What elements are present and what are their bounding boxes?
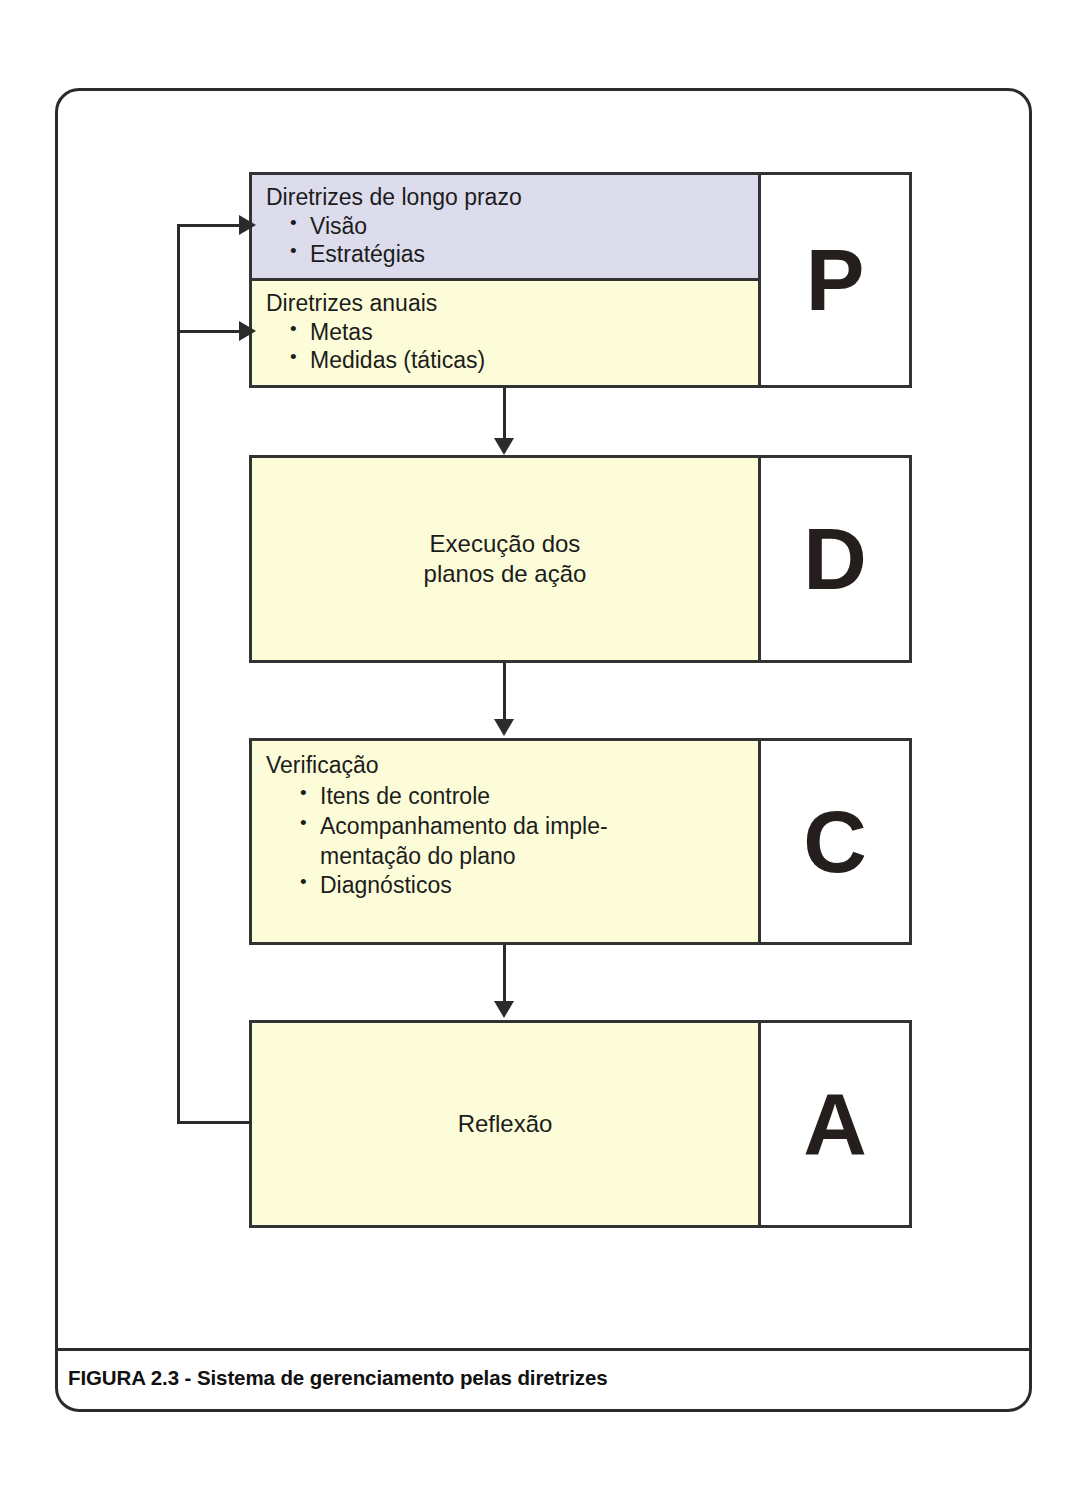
bullet-acompanhamento-line2: mentação do plano <box>320 842 758 872</box>
block-act-text: Reflexão <box>252 1023 758 1225</box>
letter-d: D <box>803 515 867 603</box>
figure-caption: FIGURA 2.3 - Sistema de gerenciamento pe… <box>68 1358 1008 1398</box>
row-long-term-heading: Diretrizes de longo prazo <box>266 185 758 211</box>
block-check-body: Verificação Itens de controle Acompanham… <box>252 741 761 942</box>
connector-check-to-act-line <box>503 945 506 1003</box>
block-plan-body: Diretrizes de longo prazo Visão Estratég… <box>252 175 761 385</box>
feedback-arrowhead-to-annual <box>239 321 256 341</box>
row-annual-guidelines: Diretrizes anuais Metas Medidas (táticas… <box>252 278 758 385</box>
block-check-bullets: Itens de controle Acompanhamento da impl… <box>266 782 758 902</box>
letter-c: C <box>803 798 867 886</box>
bullet-acompanhamento-line1: Acompanhamento da imple- <box>320 813 608 839</box>
bullet-acompanhamento: Acompanhamento da imple- mentação do pla… <box>320 812 758 872</box>
bullet-metas: Metas <box>310 318 758 346</box>
row-long-term-guidelines: Diretrizes de longo prazo Visão Estratég… <box>252 175 758 278</box>
bullet-estrategias: Estratégias <box>310 240 758 268</box>
feedback-line-riser <box>177 224 180 1124</box>
row-long-term-bullets: Visão Estratégias <box>266 212 758 268</box>
bullet-diagnosticos: Diagnósticos <box>320 871 758 901</box>
connector-check-to-act-arrowhead <box>494 1001 514 1018</box>
block-check-letter-cell: C <box>761 741 909 942</box>
letter-p: P <box>806 236 865 324</box>
block-act-letter-cell: A <box>761 1023 909 1225</box>
caption-divider <box>55 1348 1032 1351</box>
connector-do-to-check-line <box>503 663 506 721</box>
connector-plan-to-do-arrowhead <box>494 438 514 455</box>
block-act-body: Reflexão <box>252 1023 761 1225</box>
block-do-text: Execução dos planos de ação <box>252 458 758 660</box>
block-check: Verificação Itens de controle Acompanham… <box>249 738 912 945</box>
bullet-itens-controle: Itens de controle <box>320 782 758 812</box>
connector-do-to-check-arrowhead <box>494 719 514 736</box>
feedback-line-from-act <box>177 1121 252 1124</box>
block-plan-letter-cell: P <box>761 175 909 385</box>
bullet-visao: Visão <box>310 212 758 240</box>
row-annual-bullets: Metas Medidas (táticas) <box>266 318 758 374</box>
block-do-letter-cell: D <box>761 458 909 660</box>
block-plan: Diretrizes de longo prazo Visão Estratég… <box>249 172 912 388</box>
row-annual-heading: Diretrizes anuais <box>266 291 758 317</box>
connector-plan-to-do-line <box>503 388 506 440</box>
block-act: Reflexão A <box>249 1020 912 1228</box>
block-do-text-line2: planos de ação <box>424 559 587 589</box>
pdca-diagram: Diretrizes de longo prazo Visão Estratég… <box>0 0 1085 1488</box>
feedback-arrowhead-to-long-term <box>239 215 256 235</box>
block-do-body: Execução dos planos de ação <box>252 458 761 660</box>
block-check-heading: Verificação <box>266 753 758 779</box>
letter-a: A <box>803 1080 867 1168</box>
feedback-line-to-long-term <box>177 224 244 227</box>
bullet-medidas: Medidas (táticas) <box>310 346 758 374</box>
block-do: Execução dos planos de ação D <box>249 455 912 663</box>
figure-root: Diretrizes de longo prazo Visão Estratég… <box>0 0 1085 1488</box>
feedback-line-to-annual <box>177 330 244 333</box>
block-check-content: Verificação Itens de controle Acompanham… <box>252 741 758 942</box>
block-act-text-line1: Reflexão <box>458 1109 553 1139</box>
block-do-text-line1: Execução dos <box>430 529 581 559</box>
